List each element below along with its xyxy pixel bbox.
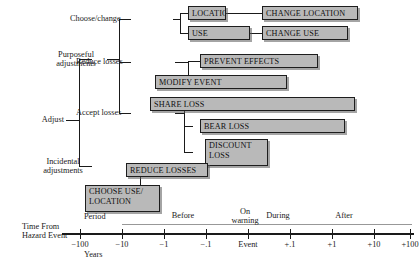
box-change-location[interactable]: CHANGE LOCATION [262,6,358,20]
box-prevent-effects[interactable]: PREVENT EFFECTS [200,54,318,68]
axis-tick-label: +1 [308,240,356,249]
axis-tick-label: −.1 [182,240,230,249]
axis-period-label: Period [84,212,134,221]
diagram-canvas: Adjust Purposeful adjustments Incidental… [0,0,419,265]
tree-branch-incidental: Incidental adjustments [34,157,92,176]
timeline-axis [62,224,414,239]
box-share-loss[interactable]: SHARE LOSS [150,97,355,111]
tree-subbranch-accept-losses: Accept losses [76,108,142,117]
box-use[interactable]: USE [188,26,250,40]
tree-subbranch-choose-change: Choose/change [70,14,140,23]
box-change-use[interactable]: CHANGE USE [262,26,348,40]
axis-phase-before: Before [155,212,211,221]
axis-tick-label: Event [224,240,272,249]
axis-caption: Time From Hazard Event [22,222,82,240]
axis-tick-label: −1 [140,240,188,249]
box-location[interactable]: LOCATION [188,6,226,20]
axis-tick-label: +100 [386,240,419,249]
axis-phase-after: After [323,212,365,221]
axis-tick-label: −100 [56,240,104,249]
tree-subbranch-reduce-losses: Reduce losses [76,57,142,66]
box-modify-event[interactable]: MODIFY EVENT [155,75,287,89]
box-discount-loss[interactable]: DISCOUNT LOSS [205,139,268,166]
box-reduce-losses[interactable]: REDUCE LOSSES [126,163,208,177]
tree-root-label: Adjust [4,115,64,124]
axis-tick-label: +.1 [266,240,314,249]
axis-phase-during: During [257,212,299,221]
box-choose-use-location[interactable]: CHOOSE USE/ LOCATION [85,185,160,212]
axis-tick-label: −10 [98,240,146,249]
box-bear-loss[interactable]: BEAR LOSS [200,119,345,133]
axis-units-label: Years [84,250,134,259]
